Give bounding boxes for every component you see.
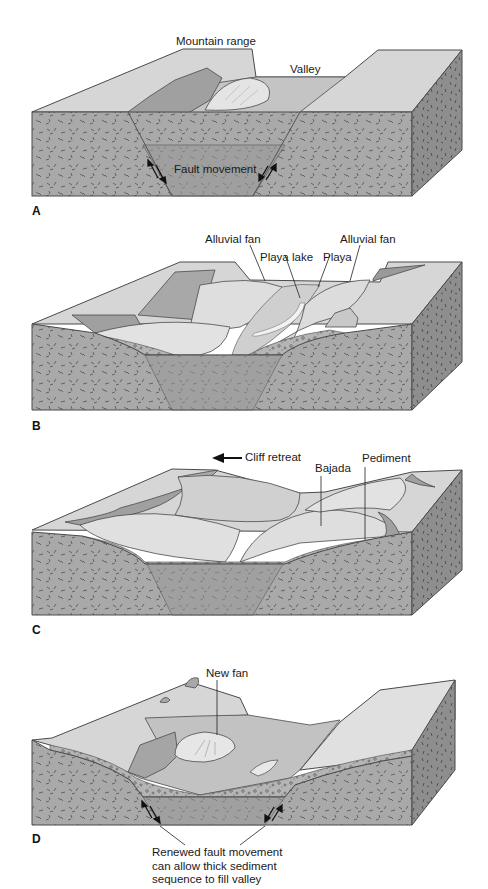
label-cliff-retreat: Cliff retreat [245, 452, 301, 464]
label-valley: Valley [290, 64, 320, 76]
note-line-1: Renewed fault movement [152, 846, 282, 860]
fan-upper-left [175, 475, 300, 521]
label-mountain-range: Mountain range [176, 36, 256, 48]
label-new-fan: New fan [206, 668, 248, 680]
label-bajada: Bajada [315, 463, 351, 475]
panel-letter-d: D [32, 832, 41, 846]
panel-letter-b: B [32, 419, 41, 433]
note-line-3: sequence to fill valley [152, 873, 282, 887]
block-diagram-b [0, 215, 488, 445]
note-line-2: can allow thick sediment [152, 860, 282, 874]
block-diagram-c [0, 440, 488, 660]
panel-letter-c: C [32, 623, 41, 637]
panel-d: New fan D Renewed fault movement can all… [0, 660, 488, 889]
block-diagram-a [0, 0, 488, 220]
label-pediment: Pediment [362, 453, 411, 465]
label-playa-lake: Playa lake [260, 252, 313, 264]
panel-c: Cliff retreat Bajada Pediment C [0, 440, 488, 660]
label-playa: Playa [323, 252, 352, 264]
label-alluvial-fan-left: Alluvial fan [205, 234, 261, 246]
label-alluvial-fan-right: Alluvial fan [340, 234, 396, 246]
graben [143, 797, 285, 825]
panel-a: Mountain range Valley Fault movement A [0, 0, 488, 220]
renewed-fault-note: Renewed fault movement can allow thick s… [152, 846, 282, 887]
panel-b: Alluvial fan Playa lake Playa Alluvial f… [0, 215, 488, 445]
label-fault-movement: Fault movement [174, 164, 256, 176]
cliff-retreat-arrow [212, 453, 242, 463]
butte [185, 678, 199, 688]
